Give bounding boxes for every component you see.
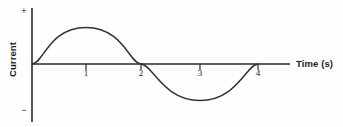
plot-area (0, 0, 343, 127)
x-axis-label: Time (s) (296, 58, 333, 69)
y-axis-positive-sign: + (19, 6, 29, 16)
x-tick-label-4: 4 (252, 68, 264, 78)
current-vs-time-graph: Current Time (s) + − 1 2 3 4 (0, 0, 343, 127)
x-tick-label-2: 2 (135, 68, 147, 78)
y-axis-negative-sign: − (19, 105, 29, 115)
x-tick-label-3: 3 (194, 68, 206, 78)
x-tick-label-1: 1 (80, 68, 92, 78)
y-axis-label: Current (7, 32, 18, 88)
